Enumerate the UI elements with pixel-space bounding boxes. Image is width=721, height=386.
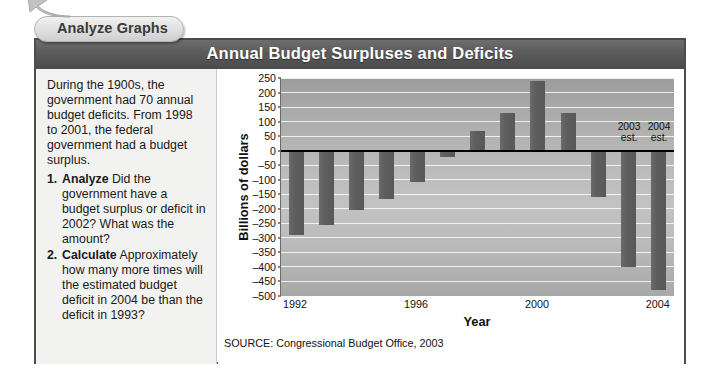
gridline: [281, 92, 674, 93]
page-root: Analyze Graphs Annual Budget Surpluses a…: [0, 0, 721, 386]
y-axis-ticks: 250200150100500–50–100–150–200–250–300–3…: [240, 69, 278, 364]
gridline: [281, 179, 674, 180]
analyze-graphs-tab-label: Analyze Graphs: [57, 20, 168, 36]
figure-title: Annual Budget Surpluses and Deficits: [36, 44, 684, 63]
estimate-annotation-2004: 2004 est.: [644, 121, 674, 144]
x-axis-tick-label: 2004: [646, 298, 670, 310]
bar-2004: [651, 151, 666, 291]
gridline: [281, 281, 674, 282]
question-item-1: 1.Analyze Did the government have a budg…: [47, 172, 206, 247]
gridline: [281, 194, 674, 195]
analyze-graphs-tab[interactable]: Analyze Graphs: [34, 16, 184, 42]
gridline: [281, 252, 674, 253]
y-axis-tick-label: –350: [252, 246, 276, 258]
gridline: [281, 208, 674, 209]
question-lead: Calculate: [62, 248, 117, 262]
question-number: 2.: [47, 248, 57, 263]
x-axis-tick-label: 1992: [283, 298, 307, 310]
y-axis-tick-label: –300: [252, 232, 276, 244]
gridline: [281, 165, 674, 166]
y-axis-tick-label: 50: [264, 130, 276, 142]
bar-1996: [410, 151, 425, 182]
question-item-2: 2.Calculate Approximately how many more …: [47, 248, 206, 323]
bar-2001: [561, 113, 576, 150]
gridline: [281, 78, 674, 79]
bar-1995: [379, 151, 394, 199]
chart-region: Billions of dollars 250200150100500–50–1…: [218, 69, 684, 364]
y-axis-tick-label: –400: [252, 261, 276, 273]
zero-line: [281, 150, 674, 152]
bar-2000: [530, 81, 545, 151]
gridline: [281, 237, 674, 238]
y-axis-tick-label: 250: [258, 72, 276, 84]
y-axis-tick-label: 100: [258, 116, 276, 128]
x-axis-label: Year: [280, 314, 674, 329]
y-axis-tick-label: –500: [252, 290, 276, 302]
source-note: SOURCE: Congressional Budget Office, 200…: [224, 337, 443, 349]
plot-area: 2003 est.2004 est.: [280, 78, 674, 296]
y-axis-tick-label: 0: [270, 145, 276, 157]
bar-1994: [349, 151, 364, 210]
gridline: [281, 223, 674, 224]
y-axis-tick-label: 200: [258, 87, 276, 99]
question-lead: Analyze: [62, 172, 108, 186]
bar-2002: [591, 151, 606, 197]
y-axis-tick-label: –450: [252, 275, 276, 287]
y-axis-tick-label: –150: [252, 188, 276, 200]
x-axis-tick-label: 1996: [404, 298, 428, 310]
question-list: 1.Analyze Did the government have a budg…: [47, 172, 206, 324]
text-panel: During the 1900s, the government had 70 …: [36, 69, 217, 364]
y-axis-tick-label: –250: [252, 217, 276, 229]
intro-paragraph: During the 1900s, the government had 70 …: [47, 78, 206, 169]
bar-1999: [500, 113, 515, 150]
figure-frame: Annual Budget Surpluses and Deficits Dur…: [34, 38, 686, 364]
question-number: 1.: [47, 172, 57, 187]
y-axis-tick-label: 150: [258, 101, 276, 113]
y-axis-tick-label: –100: [252, 174, 276, 186]
figure-header-bar: Annual Budget Surpluses and Deficits: [36, 40, 684, 69]
bar-1992: [289, 151, 304, 235]
x-axis-ticks: 1992199620002004: [280, 296, 674, 312]
y-axis-tick-label: –200: [252, 203, 276, 215]
x-axis-tick-label: 2000: [525, 298, 549, 310]
bar-2003: [621, 151, 636, 268]
gridline: [281, 107, 674, 108]
gridline: [281, 266, 674, 267]
bar-1993: [319, 151, 334, 225]
estimate-annotation-2003: 2003 est.: [614, 121, 644, 144]
y-axis-tick-label: –50: [258, 159, 276, 171]
bar-1998: [470, 131, 485, 151]
